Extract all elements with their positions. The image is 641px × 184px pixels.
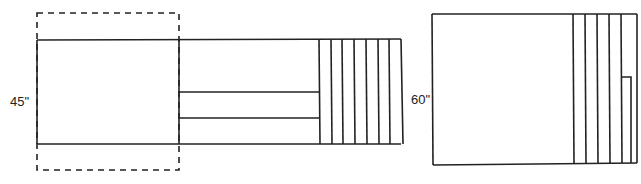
cutting-layout-diagram bbox=[0, 0, 641, 184]
height-label-45: 45" bbox=[10, 94, 29, 109]
height-label-60: 60" bbox=[411, 92, 430, 107]
dashed-extension-outline bbox=[37, 13, 179, 170]
